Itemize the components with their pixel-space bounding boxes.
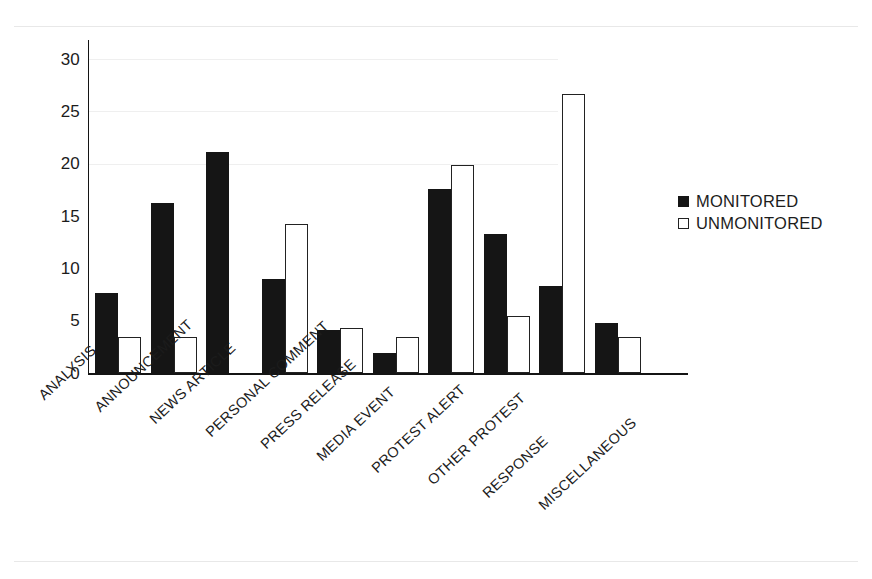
scan-rule-top xyxy=(14,26,858,27)
bar-group xyxy=(206,40,252,373)
bar-monitored-9[interactable] xyxy=(595,323,618,373)
scan-rule-bottom xyxy=(14,561,858,562)
x-label-miscellaneous: MISCELLANEOUS xyxy=(536,415,639,513)
bar-monitored-0[interactable] xyxy=(95,293,118,373)
y-tick-10: 10 xyxy=(24,260,80,277)
bar-monitored-8[interactable] xyxy=(539,286,562,373)
legend-swatch-hollow-icon xyxy=(678,218,689,229)
bar-group xyxy=(262,40,308,373)
cropped-title-remnant xyxy=(0,0,872,9)
y-tick-30: 30 xyxy=(24,51,80,68)
bar-group xyxy=(539,40,585,373)
legend-swatch-filled-icon xyxy=(678,196,689,207)
y-tick-20: 20 xyxy=(24,155,80,172)
bar-group xyxy=(95,40,141,373)
y-axis-tick-labels: 30 25 20 15 10 5 0 xyxy=(18,40,80,374)
y-tick-25: 25 xyxy=(24,103,80,120)
bar-monitored-7[interactable] xyxy=(484,234,507,373)
bar-unmonitored-8[interactable] xyxy=(562,94,585,373)
bar-group xyxy=(595,40,641,373)
bar-group xyxy=(428,40,474,373)
x-axis-line xyxy=(88,373,688,375)
chart-figure: 30 25 20 15 10 5 0 ANALYSISANNOUNCEMENTN… xyxy=(0,0,872,579)
bar-unmonitored-6[interactable] xyxy=(451,165,474,373)
bar-group xyxy=(373,40,419,373)
bar-monitored-5[interactable] xyxy=(373,353,396,373)
legend-label-unmonitored: UNMONITORED xyxy=(696,215,823,232)
bar-unmonitored-5[interactable] xyxy=(396,337,419,373)
bar-monitored-6[interactable] xyxy=(428,189,451,373)
bar-group xyxy=(484,40,530,373)
y-tick-15: 15 xyxy=(24,208,80,225)
chart-legend: MONITORED UNMONITORED xyxy=(678,190,858,234)
bar-unmonitored-9[interactable] xyxy=(618,337,641,373)
legend-item-monitored[interactable]: MONITORED xyxy=(678,190,858,212)
y-tick-5: 5 xyxy=(24,312,80,329)
x-label-response: RESPONSE xyxy=(480,433,551,501)
legend-label-monitored: MONITORED xyxy=(696,193,798,210)
legend-item-unmonitored[interactable]: UNMONITORED xyxy=(678,212,858,234)
bar-unmonitored-7[interactable] xyxy=(507,316,530,373)
